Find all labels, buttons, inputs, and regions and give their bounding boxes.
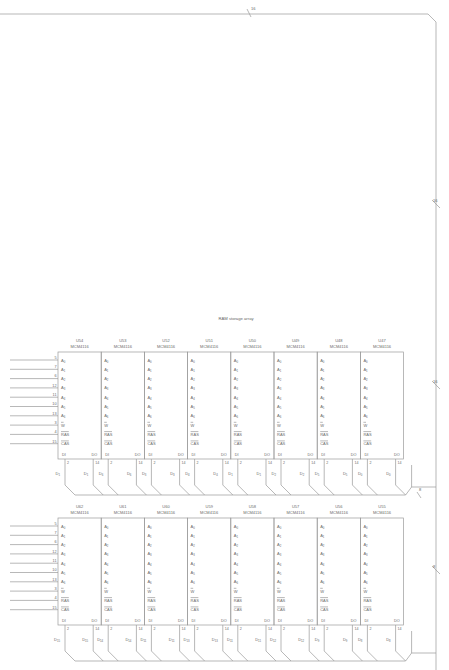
data-out-label: D2	[300, 471, 305, 477]
di-pin-number: 2	[326, 627, 328, 631]
di-label: DI	[192, 619, 196, 623]
di-label: DI	[278, 453, 282, 457]
pin-label-a3: A3	[104, 551, 109, 557]
chip-reference: U53	[119, 338, 127, 343]
data-out-label: D15	[82, 637, 88, 643]
pin-label-a1: A1	[104, 367, 109, 373]
pin-label-cas: CAS	[277, 607, 286, 612]
pin-label-a2: A2	[320, 542, 325, 548]
do-label: DO	[91, 453, 97, 457]
data-out-label: D11	[169, 637, 175, 643]
diagram-title: RAM storage array	[218, 316, 254, 321]
di-pin-number: 2	[153, 461, 155, 465]
chip-part-number: MCM4116	[373, 510, 392, 515]
pin-label-a0: A0	[104, 524, 109, 530]
data-out-label: D1	[257, 471, 262, 477]
pin-label-a5: A5	[147, 570, 152, 576]
pin-label-a0: A0	[320, 358, 325, 364]
chip-reference: U58	[249, 504, 257, 509]
chip-part-number: MCM4116	[114, 344, 133, 349]
pin-label-a6: A6	[61, 413, 66, 419]
pin-label-ras: RAS	[363, 598, 372, 603]
data-out-label: D13	[212, 637, 218, 643]
pin-label-a5: A5	[363, 570, 368, 576]
pin-label-a2: A2	[61, 376, 66, 382]
data-in-label: D13	[184, 637, 190, 643]
pin-label-a4: A4	[104, 395, 109, 401]
pin-label-a4: A4	[277, 561, 282, 567]
do-label: DO	[394, 619, 400, 623]
data-out-label: D6	[127, 471, 132, 477]
pin-label-a4: A4	[191, 561, 196, 567]
pin-label-cas: CAS	[61, 441, 70, 446]
pin-number-a1: 7	[54, 365, 56, 369]
di-label: DI	[62, 453, 66, 457]
row1-output-bus-label: 8	[419, 487, 422, 492]
chip-part-number: MCM4116	[71, 510, 90, 515]
pin-label-a1: A1	[277, 533, 282, 539]
pin-label-w: W	[61, 589, 65, 594]
data-in-label: D1	[228, 471, 233, 477]
pin-label-a1: A1	[320, 367, 325, 373]
pin-label-ras: RAS	[147, 598, 156, 603]
pin-label-a1: A1	[363, 533, 368, 539]
pin-label-cas: CAS	[191, 441, 200, 446]
data-out-label: D4	[213, 471, 218, 477]
chip-reference: U62	[76, 504, 84, 509]
pin-label-a2: A2	[191, 542, 196, 548]
pin-label-cas: CAS	[104, 441, 113, 446]
data-out-label: D8	[386, 637, 391, 643]
pin-label-a4: A4	[147, 395, 152, 401]
pin-label-a0: A0	[191, 524, 196, 530]
chip-reference: U50	[249, 338, 257, 343]
chip-u55: U55MCM4116A0A1A2A3A4A5A6WRASCASDIDO214D8…	[358, 504, 406, 661]
do-pin-number: 14	[95, 461, 99, 465]
pin-label-a4: A4	[104, 561, 109, 567]
pin-label-a2: A2	[363, 376, 368, 382]
chip-reference: U61	[119, 504, 127, 509]
pin-label-a2: A2	[277, 542, 282, 548]
pin-number-w: 3	[54, 587, 56, 591]
pin-label-a4: A4	[320, 395, 325, 401]
do-label: DO	[178, 619, 184, 623]
pin-label-a4: A4	[277, 395, 282, 401]
di-pin-number: 2	[110, 461, 112, 465]
pin-label-a3: A3	[234, 551, 239, 557]
pin-label-a5: A5	[277, 404, 282, 410]
pin-label-a6: A6	[191, 413, 196, 419]
di-pin-number: 2	[369, 627, 371, 631]
data-out-label: D0	[386, 471, 391, 477]
pin-label-a0: A0	[277, 358, 282, 364]
pin-label-a1: A1	[277, 367, 282, 373]
chip-part-number: MCM4116	[287, 344, 306, 349]
pin-number-ras: 4	[54, 430, 56, 434]
pin-label-cas: CAS	[61, 607, 70, 612]
chip-reference: U59	[206, 504, 214, 509]
pin-number-w: 3	[54, 421, 56, 425]
pin-label-ras: RAS	[320, 598, 329, 603]
pin-label-a1: A1	[191, 533, 196, 539]
pin-label-ras: RAS	[320, 432, 329, 437]
do-pin-number: 14	[354, 461, 358, 465]
chip-reference: U54	[76, 338, 84, 343]
pin-label-a3: A3	[147, 385, 152, 391]
pin-label-w: W	[61, 423, 65, 428]
pin-label-cas: CAS	[104, 607, 113, 612]
pin-label-a4: A4	[363, 561, 368, 567]
do-pin-number: 14	[225, 461, 229, 465]
chip-part-number: MCM4116	[157, 344, 176, 349]
pin-number-ras: 4	[54, 596, 56, 600]
pin-label-a3: A3	[363, 551, 368, 557]
pin-label-a3: A3	[234, 385, 239, 391]
pin-label-a5: A5	[61, 404, 66, 410]
chip-part-number: MCM4116	[114, 510, 133, 515]
do-label: DO	[351, 619, 357, 623]
pin-label-a2: A2	[147, 542, 152, 548]
chip-part-number: MCM4116	[330, 510, 349, 515]
pin-label-a1: A1	[104, 533, 109, 539]
pin-label-ras: RAS	[147, 432, 156, 437]
di-pin-number: 2	[197, 627, 199, 631]
pin-label-ras: RAS	[61, 598, 70, 603]
chip-part-number: MCM4116	[200, 344, 219, 349]
main-data-bus	[0, 14, 436, 670]
